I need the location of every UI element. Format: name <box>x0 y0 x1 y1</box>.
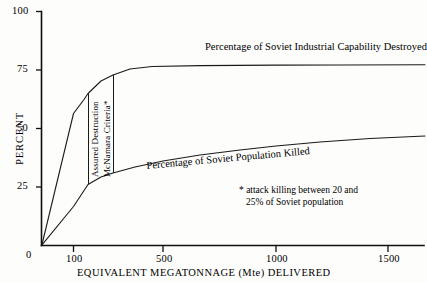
x-tick-label-100: 100 <box>66 253 82 264</box>
y-tick-label-75: 75 <box>17 63 28 74</box>
footnote: * attack killing between 20 and 25% of S… <box>239 185 389 209</box>
footnote-line2: 25% of Soviet population <box>246 197 343 209</box>
y-tick-label-100: 100 <box>12 5 28 16</box>
label-industrial-capability: Percentage of Soviet Industrial Capabili… <box>205 41 427 52</box>
footnote-marker: * <box>239 185 244 195</box>
bracket-label-line2: McNamara Criteria* <box>103 100 113 177</box>
x-tick-label-1000: 1000 <box>266 253 288 264</box>
bracket-label-line1: Assured Destruction <box>91 101 101 177</box>
y-axis-title: PERCENT <box>14 112 25 165</box>
x-axis-title: EQUIVALENT MEGATONNAGE (Mte) DELIVERED <box>77 267 331 278</box>
x-tick-label-500: 500 <box>156 253 172 264</box>
y-tick-label-0: 0 <box>26 249 31 260</box>
chart-figure: 100 75 50 25 0 100 500 1000 1500 EQUIVAL… <box>0 0 427 282</box>
x-tick-label-1500: 1500 <box>378 253 400 264</box>
footnote-line1: attack killing between 20 and <box>246 185 358 195</box>
y-tick-label-25: 25 <box>17 180 28 191</box>
